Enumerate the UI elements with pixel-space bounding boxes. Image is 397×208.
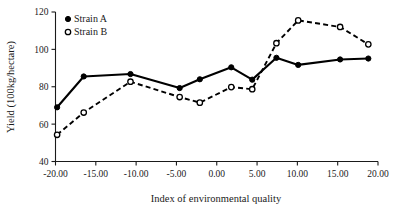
legend-marker-strain-b bbox=[65, 29, 70, 34]
series-line-b bbox=[57, 20, 368, 134]
x-axis-title: Index of environmental quality bbox=[151, 193, 282, 204]
line-chart-plot: 406080100120 -20.00-15.00-10.00-5.000.00… bbox=[0, 0, 397, 208]
x-tick-label: 15.00 bbox=[327, 169, 349, 179]
data-point-strain-a bbox=[55, 105, 60, 110]
data-point-strain-a bbox=[81, 74, 86, 79]
data-point-strain-b bbox=[295, 18, 300, 23]
x-tick-label: 5.00 bbox=[249, 169, 266, 179]
y-tick-label: 40 bbox=[39, 157, 49, 167]
y-tick-label: 60 bbox=[39, 120, 49, 130]
data-point-strain-b bbox=[250, 86, 255, 91]
data-point-strain-a bbox=[338, 57, 343, 62]
data-point-strain-b bbox=[54, 132, 59, 137]
data-point-strain-b bbox=[229, 84, 234, 89]
y-tick-label: 100 bbox=[34, 45, 49, 55]
x-tick-label: -15.00 bbox=[84, 169, 109, 179]
legend-marker-strain-a bbox=[65, 16, 70, 21]
x-tick-label: -10.00 bbox=[124, 169, 149, 179]
x-tick-label: 20.00 bbox=[367, 169, 389, 179]
data-point-strain-a bbox=[177, 85, 182, 90]
data-point-strain-a bbox=[250, 77, 255, 82]
y-axis-title: Yield (100kg/hectare) bbox=[5, 41, 17, 133]
y-tick-label: 120 bbox=[34, 7, 49, 17]
data-point-strain-a bbox=[274, 55, 279, 60]
y-axis-ticks: 406080100120 bbox=[34, 7, 55, 167]
x-tick-label: -5.00 bbox=[167, 169, 187, 179]
data-point-strain-b bbox=[81, 110, 86, 115]
data-point-strain-b bbox=[366, 42, 371, 47]
x-axis-ticks: -20.00-15.00-10.00-5.000.005.0010.0015.0… bbox=[43, 162, 389, 179]
data-point-strain-a bbox=[197, 77, 202, 82]
chart-figure: 406080100120 -20.00-15.00-10.00-5.000.00… bbox=[0, 0, 397, 208]
x-tick-label: 0.00 bbox=[208, 169, 225, 179]
legend-label-strain-b: Strain B bbox=[74, 26, 107, 37]
chart-legend: Strain AStrain B bbox=[65, 13, 108, 37]
data-point-strain-a bbox=[366, 56, 371, 61]
x-tick-label: 10.00 bbox=[287, 169, 309, 179]
data-point-strain-a bbox=[128, 71, 133, 76]
data-point-strain-b bbox=[274, 41, 279, 46]
y-tick-label: 80 bbox=[39, 82, 49, 92]
data-point-strain-b bbox=[128, 79, 133, 84]
data-point-strain-b bbox=[337, 24, 342, 29]
data-point-strain-b bbox=[177, 94, 182, 99]
series-a bbox=[55, 55, 371, 110]
legend-label-strain-a: Strain A bbox=[74, 13, 108, 24]
x-tick-label: -20.00 bbox=[43, 169, 68, 179]
data-point-strain-a bbox=[296, 62, 301, 67]
data-point-strain-a bbox=[229, 65, 234, 70]
data-point-strain-b bbox=[197, 100, 202, 105]
